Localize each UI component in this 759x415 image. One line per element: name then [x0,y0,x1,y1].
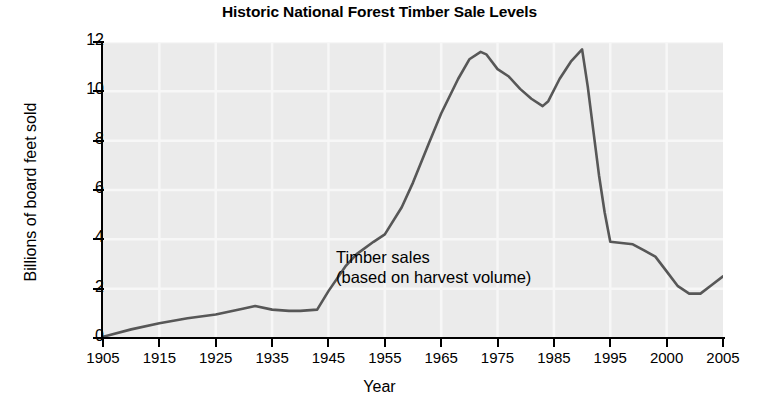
x-tick-mark [609,338,611,347]
y-tick-mark [93,90,104,92]
x-tick-label: 1995 [594,349,627,366]
x-tick-label: 1965 [424,349,457,366]
x-axis-label: Year [0,378,759,396]
x-tick-label: 1935 [255,349,288,366]
annotation-line-1: Timber sales [336,248,430,266]
y-tick-mark [93,41,104,43]
x-tick-label: 1945 [312,349,345,366]
x-tick-label: 1985 [537,349,570,366]
annotation-line-2: (based on harvest volume) [336,268,531,286]
chart-figure: Historic National Forest Timber Sale Lev… [0,0,759,415]
y-tick-label: 10 [70,80,104,98]
x-tick-label: 1915 [143,349,176,366]
x-tick-mark [666,338,668,347]
y-tick-mark [93,288,104,290]
x-tick-mark [384,338,386,347]
x-tick-mark [553,338,555,347]
x-tick-mark [215,338,217,347]
y-tick-label: 8 [70,130,104,148]
x-tick-mark [440,338,442,347]
chart-title: Historic National Forest Timber Sale Lev… [0,3,759,21]
y-tick-mark [93,238,104,240]
y-tick-label: 2 [70,278,104,296]
x-tick-label: 2000 [650,349,683,366]
gridlines [103,42,723,338]
x-tick-label: 1955 [368,349,401,366]
x-tick-mark [158,338,160,347]
x-tick-mark [497,338,499,347]
y-tick-label: 6 [70,179,104,197]
x-tick-mark [327,338,329,347]
x-tick-label: 1905 [86,349,119,366]
x-tick-label: 1925 [199,349,232,366]
series-annotation: Timber sales (based on harvest volume) [336,247,531,287]
x-tick-mark [722,338,724,347]
plot-svg [103,42,723,338]
plot-area [103,42,723,338]
y-tick-label: 4 [70,228,104,246]
x-tick-mark [102,338,104,347]
x-axis-line [101,337,725,339]
x-tick-mark [271,338,273,347]
y-tick-label: 12 [70,31,104,49]
y-axis-label: Billions of board feet sold [22,42,40,342]
y-tick-mark [93,140,104,142]
x-tick-label: 1975 [481,349,514,366]
x-tick-label: 2005 [706,349,739,366]
y-tick-label: 0 [70,327,104,345]
y-tick-mark [93,189,104,191]
